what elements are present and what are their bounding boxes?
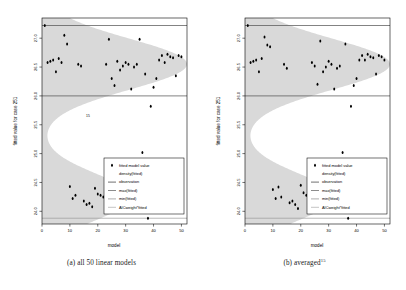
- x-tick-label: 40: [354, 228, 359, 233]
- data-point: [66, 42, 68, 45]
- x-tick-label: 10: [271, 228, 276, 233]
- data-point: [108, 38, 110, 41]
- y-tick-label: 26.5: [236, 62, 241, 71]
- data-point: [361, 54, 363, 57]
- data-point: [133, 66, 135, 69]
- y-axis-title-a: fitted value for case 251: [13, 96, 18, 145]
- data-point: [178, 54, 180, 57]
- data-point: [286, 67, 288, 70]
- data-point: [167, 53, 169, 56]
- data-point: [94, 187, 96, 190]
- legend-a[interactable]: fitted model valuedensity(fitted)observa…: [104, 158, 184, 214]
- data-point: [275, 197, 277, 200]
- data-point: [358, 59, 360, 62]
- data-point: [339, 64, 341, 67]
- data-point: [63, 34, 65, 37]
- data-point: [114, 84, 116, 87]
- data-point: [297, 207, 299, 210]
- data-point: [127, 63, 129, 66]
- data-point: [150, 105, 152, 108]
- x-tick-label: 0: [244, 228, 247, 233]
- y-tick-label: 24.5: [33, 178, 38, 187]
- y-tick-label: 26.0: [236, 91, 241, 100]
- y-tick-label: 24.5: [236, 178, 241, 187]
- data-point: [105, 63, 107, 66]
- y-axis-b: 24.024.525.025.526.026.527.0: [236, 33, 245, 215]
- panel-a: 01020304050 24.024.525.025.526.026.527.0…: [0, 0, 203, 290]
- caption-b-sup: 15: [321, 258, 326, 263]
- data-point: [58, 57, 60, 60]
- caption-b: (b) averaged15: [203, 258, 406, 267]
- data-point: [356, 77, 358, 80]
- legend-label: observation: [322, 179, 342, 184]
- caption-a: (a) all 50 linear models: [0, 258, 203, 267]
- data-point: [61, 61, 63, 64]
- data-point: [322, 70, 324, 73]
- data-point: [364, 59, 366, 62]
- x-axis-a: 01020304050: [41, 224, 185, 233]
- data-point: [169, 55, 171, 58]
- data-point: [344, 42, 346, 45]
- data-point: [272, 188, 274, 191]
- data-point: [147, 217, 149, 220]
- data-point: [300, 184, 302, 187]
- data-point: [172, 56, 174, 59]
- x-axis-title-b: model: [311, 243, 324, 248]
- x-tick-label: 40: [151, 228, 156, 233]
- data-point: [333, 87, 335, 90]
- legend-marker-point: [314, 164, 316, 167]
- data-point: [100, 194, 102, 197]
- data-point: [330, 63, 332, 66]
- data-point: [155, 77, 157, 80]
- data-point: [280, 195, 282, 198]
- data-point: [278, 186, 280, 189]
- x-tick-label: 50: [179, 228, 184, 233]
- x-tick-label: 30: [326, 228, 331, 233]
- data-point: [325, 66, 327, 69]
- legend-label: max(fitted): [322, 188, 341, 193]
- data-point: [252, 60, 254, 63]
- data-point: [77, 63, 79, 66]
- data-point: [269, 45, 271, 48]
- caption-b-main: (b) averaged: [283, 259, 320, 267]
- data-point: [353, 84, 355, 87]
- x-tick-label: 50: [382, 228, 387, 233]
- data-point: [158, 59, 160, 62]
- data-point: [311, 61, 313, 64]
- data-point: [266, 44, 268, 47]
- y-tick-label: 25.0: [33, 149, 38, 158]
- data-point: [86, 203, 88, 206]
- x-tick-label: 20: [95, 228, 100, 233]
- legend-label: AICweight*fitted: [119, 205, 147, 210]
- data-point: [372, 56, 374, 59]
- data-point: [44, 24, 46, 27]
- data-point: [161, 54, 163, 57]
- y-tick-label: 27.0: [33, 33, 38, 42]
- x-tick-label: 30: [123, 228, 128, 233]
- data-point: [350, 105, 352, 108]
- legend-label: min(fitted): [322, 196, 340, 201]
- data-point: [370, 55, 372, 58]
- data-point: [294, 203, 296, 206]
- y-tick-label: 24.0: [236, 207, 241, 216]
- x-tick-label: 0: [41, 228, 44, 233]
- legend-label: fitted model value: [119, 163, 150, 168]
- data-point: [144, 72, 146, 75]
- data-point: [261, 57, 263, 60]
- data-point: [49, 60, 51, 63]
- legend-marker-point: [111, 164, 113, 167]
- data-point: [75, 194, 77, 197]
- data-point: [141, 151, 143, 154]
- y-tick-label: 25.5: [33, 120, 38, 129]
- data-point: [291, 199, 293, 202]
- data-point: [175, 74, 177, 77]
- data-point: [88, 202, 90, 205]
- y-tick-label: 27.0: [236, 33, 241, 42]
- legend-b[interactable]: fitted model valuedensity(fitted)observa…: [307, 158, 387, 214]
- data-point: [255, 59, 257, 62]
- data-point: [47, 61, 49, 64]
- data-point: [383, 59, 385, 62]
- data-point: [80, 64, 82, 67]
- data-point: [328, 60, 330, 63]
- legend-label: AICweight*fitted: [322, 205, 350, 210]
